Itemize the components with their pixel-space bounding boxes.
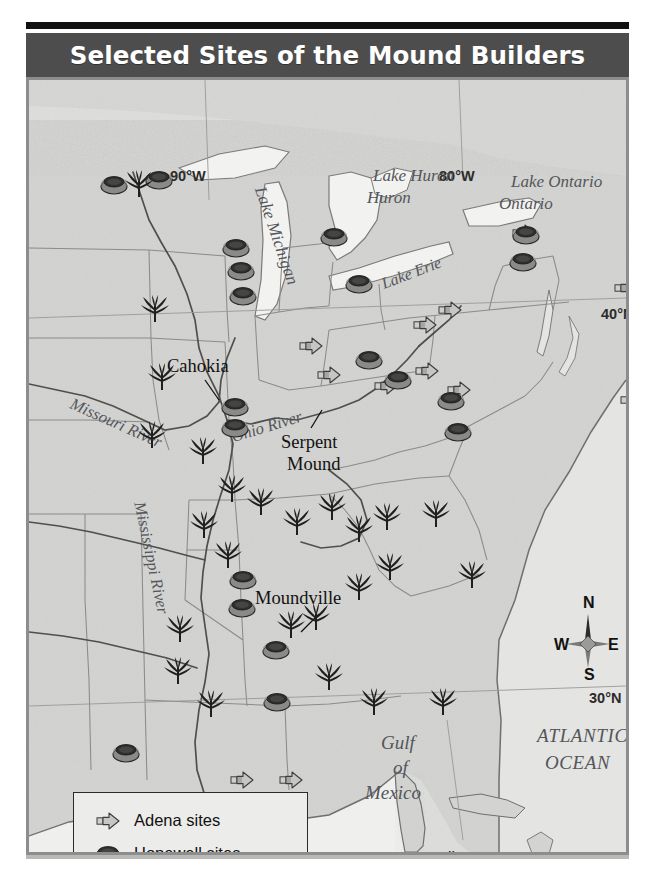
hopewell-site-marker [230, 572, 256, 590]
hopewell-site-markers [101, 172, 539, 763]
hopewell-site-marker [356, 352, 382, 370]
mississippian-site-marker [148, 363, 176, 390]
mississippian-site-marker [189, 437, 217, 464]
mississippian-site-marker [373, 503, 401, 530]
hopewell-site-marker [321, 229, 347, 247]
mississippian-site-marker [125, 170, 153, 197]
hopewell-site-marker [113, 745, 139, 763]
hopewell-site-marker [222, 420, 248, 438]
mississippian-site-marker [214, 541, 242, 568]
mississippian-site-marker [318, 493, 346, 520]
adena-arrow-icon [88, 806, 128, 836]
mississippian-site-marker [360, 688, 388, 715]
mississippian-site-marker [458, 561, 486, 588]
legend-label-hopewell: Hopewell sites [128, 844, 240, 855]
legend-label-adena: Adena sites [128, 811, 220, 830]
adena-site-marker [414, 317, 436, 333]
mississippian-site-marker [422, 500, 450, 527]
mississippian-site-marker [138, 421, 166, 448]
adena-site-marker [300, 338, 322, 354]
site-symbol-layer [29, 80, 626, 852]
mississippian-site-marker [283, 508, 311, 535]
page-title: Selected Sites of the Mound Builders [26, 33, 629, 77]
mississippian-site-marker [376, 553, 404, 580]
adena-site-marker [231, 772, 253, 788]
mississippian-site-marker [197, 690, 225, 717]
mississippian-site-marker [166, 615, 194, 642]
adena-site-marker [621, 392, 626, 408]
adena-site-marker [318, 367, 340, 383]
mississippian-site-marker [345, 515, 373, 542]
map-frame: 90°W 80°W 40°N 30°N Lake Michigan Lake H… [26, 77, 629, 855]
hopewell-site-marker [264, 694, 290, 712]
mississippian-site-marker [345, 573, 373, 600]
legend-item-adena: Adena sites [88, 804, 307, 837]
mississippian-site-marker [218, 475, 246, 502]
mississippian-site-markers [125, 170, 486, 717]
hopewell-site-marker [346, 276, 372, 294]
hopewell-site-marker [228, 263, 254, 281]
mississippian-site-marker [247, 488, 275, 515]
hopewell-site-marker [385, 372, 411, 390]
adena-site-marker [615, 280, 626, 296]
mississippian-site-marker [164, 657, 192, 684]
adena-site-marker [280, 772, 302, 788]
legend-item-hopewell: Hopewell sites [88, 837, 307, 855]
map-legend: Adena sites Hopewell sites [73, 792, 308, 855]
mississippian-site-marker [429, 688, 457, 715]
adena-site-marker [416, 363, 438, 379]
hopewell-site-marker [513, 227, 539, 245]
map-page: Selected Sites of the Mound Builders [0, 0, 655, 882]
scale-miles-zero: 0 [317, 848, 326, 855]
hopewell-site-marker [263, 642, 289, 660]
adena-site-marker [439, 302, 461, 318]
hopewell-site-marker [510, 254, 536, 272]
title-top-rule [26, 22, 629, 29]
hopewell-site-marker [101, 177, 127, 195]
mississippian-site-marker [302, 603, 330, 630]
hopewell-site-marker [445, 424, 471, 442]
scale-bar: 0 150 miles 0 150 kilometers Lambert Con… [317, 848, 532, 855]
map-bottom-edge [26, 855, 629, 859]
compass-rose: N W E S [550, 596, 624, 688]
hopewell-site-marker [223, 240, 249, 258]
hopewell-site-marker [222, 399, 248, 417]
mississippian-site-marker [315, 663, 343, 690]
hopewell-site-marker [230, 288, 256, 306]
mississippian-site-marker [277, 611, 305, 638]
hopewell-site-marker [438, 393, 464, 411]
scale-miles-label: 150 miles [405, 848, 471, 855]
mississippian-site-marker [190, 511, 218, 538]
compass-needle-icon [550, 596, 624, 688]
hopewell-mound-icon [88, 839, 128, 856]
mississippian-site-marker [141, 295, 169, 322]
hopewell-site-marker [229, 600, 255, 618]
